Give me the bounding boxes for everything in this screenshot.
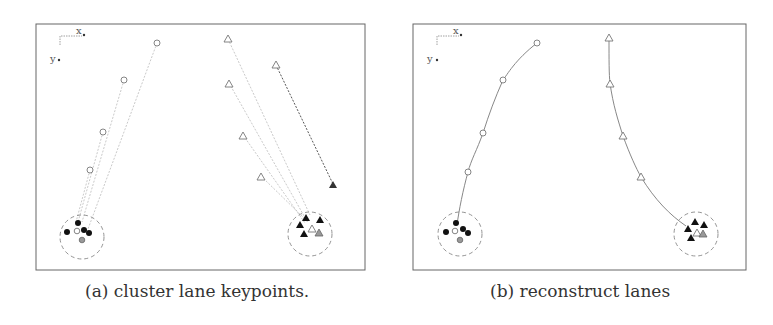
y-axis-label: y — [49, 53, 56, 64]
caption-b: (b) reconstruct lanes — [490, 281, 670, 301]
x-axis-label: x — [76, 25, 82, 36]
panel-b-reconstruct-lanes: x y — [386, 0, 773, 280]
x-axis-label-b: x — [453, 25, 459, 36]
panel-a-cluster-keypoints: x y — [0, 0, 386, 280]
caption-a: (a) cluster lane keypoints. — [85, 281, 309, 301]
y-axis-label-b: y — [426, 53, 433, 64]
cluster1-center — [74, 228, 80, 234]
